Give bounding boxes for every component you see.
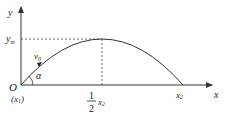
- ymax-label: ym: [5, 33, 15, 45]
- x2-label: x2: [175, 90, 183, 100]
- half-numerator: 1: [89, 90, 94, 101]
- x-axis-label: x: [213, 89, 219, 100]
- y-axis-label: y: [7, 7, 13, 18]
- trajectory-curve: [21, 39, 183, 85]
- half-denominator: 2: [89, 103, 94, 114]
- angle-arc: [29, 76, 33, 85]
- half-x2-label: x2: [97, 97, 105, 107]
- velocity-label: v0: [34, 51, 41, 62]
- angle-label: α: [36, 70, 42, 81]
- projectile-diagram: y x ym v0 α O (x1) 1 2 x2 x2: [0, 0, 225, 117]
- origin-label: O: [9, 81, 17, 93]
- origin-x1-label: (x1): [11, 94, 24, 104]
